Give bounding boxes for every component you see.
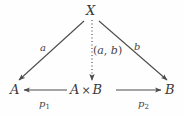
edge-label-p1: p1 bbox=[39, 99, 50, 111]
node-label-a: A bbox=[10, 83, 20, 96]
p1-subscript: 1 bbox=[45, 103, 49, 111]
pair-second-component: b bbox=[111, 44, 118, 57]
edge-label-a: a bbox=[40, 43, 46, 53]
product-right-object: B bbox=[93, 82, 103, 97]
pair-close-paren: ) bbox=[118, 44, 122, 57]
edge-label-b: b bbox=[134, 42, 140, 52]
edge-label-pair: (a, b) bbox=[93, 45, 122, 56]
p2-subscript: 2 bbox=[144, 103, 148, 111]
pair-comma: , bbox=[104, 44, 111, 57]
product-times-symbol: × bbox=[79, 84, 92, 97]
node-label-product: A×B bbox=[70, 83, 102, 96]
edge-x-to-a bbox=[19, 21, 84, 80]
edge-label-p2: p2 bbox=[138, 99, 149, 111]
product-left-object: A bbox=[70, 82, 79, 97]
commutative-diagram: X A A×B B a (a, b) b p1 p2 bbox=[0, 0, 184, 116]
node-label-b: B bbox=[165, 83, 175, 96]
node-label-x: X bbox=[86, 4, 95, 17]
